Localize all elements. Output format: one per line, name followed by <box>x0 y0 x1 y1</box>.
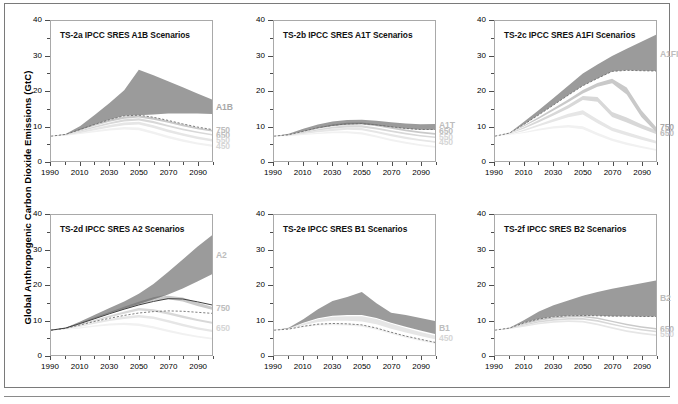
y-tick-mark-minor <box>47 109 50 110</box>
x-tick-mark-minor <box>657 356 658 359</box>
x-tick-mark <box>109 356 110 360</box>
y-tick-label: 30 <box>16 246 42 254</box>
y-tick-mark <box>268 127 273 128</box>
panel-title-f: TS-2f IPCC SRES B2 Scenarios <box>504 224 626 234</box>
x-tick-label: 2090 <box>181 362 215 371</box>
x-tick-mark <box>583 356 584 360</box>
x-tick-mark-minor <box>627 356 628 359</box>
x-tick-mark <box>303 356 304 360</box>
panel-title-d: TS-2d IPCC SRES A2 Scenarios <box>60 224 184 234</box>
x-tick-mark <box>421 356 422 360</box>
x-tick-label: 2090 <box>404 168 438 177</box>
x-tick-mark-minor <box>568 356 569 359</box>
y-tick-mark-minor <box>491 267 494 268</box>
panel-b: TS-2b IPCC SRES A1T Scenarios01020304019… <box>237 12 445 195</box>
plot-area-d <box>50 214 213 356</box>
x-tick-mark-minor <box>436 162 437 165</box>
y-tick-label: 20 <box>239 281 265 289</box>
y-tick-mark-minor <box>270 109 273 110</box>
y-tick-mark-minor <box>270 303 273 304</box>
x-tick-mark <box>332 162 333 166</box>
x-tick-mark-minor <box>598 356 599 359</box>
y-tick-mark-minor <box>270 144 273 145</box>
x-tick-mark-minor <box>213 162 214 165</box>
band-canvas-b <box>274 21 435 161</box>
y-tick-label: 20 <box>16 281 42 289</box>
y-tick-label: 40 <box>239 210 265 218</box>
panel-title-b: TS-2b IPCC SRES A1T Scenarios <box>283 30 412 40</box>
x-tick-mark <box>80 162 81 166</box>
edge-label-750: 750 <box>216 303 230 313</box>
x-tick-mark-minor <box>183 356 184 359</box>
x-tick-mark <box>553 162 554 166</box>
band-canvas-a <box>51 21 212 161</box>
x-tick-mark-minor <box>124 162 125 165</box>
x-tick-mark-minor <box>406 356 407 359</box>
x-tick-mark-minor <box>538 162 539 165</box>
x-tick-mark <box>642 356 643 360</box>
y-tick-mark <box>489 214 494 215</box>
y-tick-mark <box>489 91 494 92</box>
x-tick-mark <box>421 162 422 166</box>
x-tick-mark <box>169 356 170 360</box>
y-tick-mark-minor <box>270 338 273 339</box>
x-tick-mark-minor <box>65 162 66 165</box>
x-tick-label: 2090 <box>181 168 215 177</box>
y-tick-label: 0 <box>16 158 42 166</box>
y-tick-mark-minor <box>47 38 50 39</box>
y-tick-mark <box>268 250 273 251</box>
panel-title-e: TS-2e IPCC SRES B1 Scenarios <box>283 224 407 234</box>
x-tick-mark <box>50 162 51 166</box>
y-tick-label: 0 <box>460 158 486 166</box>
y-tick-mark-minor <box>491 144 494 145</box>
x-tick-mark-minor <box>94 356 95 359</box>
x-tick-mark-minor <box>288 162 289 165</box>
panel-a: TS-2a IPCC SRES A1B Scenarios01020304019… <box>14 12 222 195</box>
x-tick-label: 2090 <box>404 362 438 371</box>
band-canvas-d <box>51 215 212 355</box>
x-tick-mark <box>613 162 614 166</box>
y-tick-label: 20 <box>460 87 486 95</box>
x-tick-mark <box>109 162 110 166</box>
plot-area-e <box>273 214 436 356</box>
band-canvas-f <box>495 215 656 355</box>
edge-label-450: 450 <box>439 137 453 147</box>
x-tick-mark-minor <box>317 162 318 165</box>
x-tick-mark <box>332 356 333 360</box>
y-tick-label: 10 <box>239 317 265 325</box>
edge-label-b1: B1 <box>439 323 450 333</box>
x-tick-mark-minor <box>436 356 437 359</box>
x-tick-mark-minor <box>657 162 658 165</box>
y-tick-mark-minor <box>270 73 273 74</box>
panel-c: TS-2c IPCC SRES A1FI Scenarios0102030401… <box>458 12 666 195</box>
y-tick-mark-minor <box>491 338 494 339</box>
plot-area-a <box>50 20 213 162</box>
y-tick-mark <box>45 91 50 92</box>
x-tick-mark <box>613 356 614 360</box>
panel-e: TS-2e IPCC SRES B1 Scenarios010203040199… <box>237 206 445 389</box>
y-tick-label: 30 <box>16 52 42 60</box>
x-tick-mark <box>553 356 554 360</box>
x-tick-mark-minor <box>347 162 348 165</box>
x-tick-mark-minor <box>598 162 599 165</box>
x-tick-mark-minor <box>406 162 407 165</box>
x-tick-mark-minor <box>154 356 155 359</box>
y-tick-label: 0 <box>239 352 265 360</box>
x-tick-mark-minor <box>509 162 510 165</box>
edge-label-550: 550 <box>660 329 674 339</box>
x-tick-label: 2090 <box>625 168 659 177</box>
x-tick-mark-minor <box>183 162 184 165</box>
y-tick-mark <box>45 285 50 286</box>
x-tick-mark <box>362 162 363 166</box>
y-tick-mark-minor <box>47 303 50 304</box>
y-tick-label: 0 <box>16 352 42 360</box>
y-tick-label: 40 <box>460 210 486 218</box>
y-tick-label: 40 <box>239 16 265 24</box>
edge-label-a2: A2 <box>216 250 227 260</box>
plot-area-f <box>494 214 657 356</box>
panel-title-c: TS-2c IPCC SRES A1FI Scenarios <box>504 30 635 40</box>
y-tick-mark <box>489 127 494 128</box>
edge-label-a1b: A1B <box>216 102 233 112</box>
x-tick-mark <box>392 162 393 166</box>
